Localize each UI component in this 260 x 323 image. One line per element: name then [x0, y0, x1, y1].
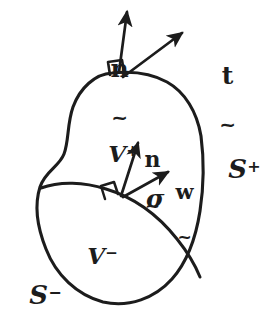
region-minus-superscript: −	[105, 244, 118, 262]
normal-outer-glyph: n	[104, 56, 135, 81]
velocity-inner-glyph: w	[169, 181, 200, 202]
region-plus-superscript: +	[126, 142, 139, 160]
surface-minus-superscript: −	[48, 283, 61, 302]
velocity-inner-tilde: ~	[169, 233, 200, 242]
label-surface-plus: S+	[208, 140, 260, 198]
region-minus-base: V	[87, 242, 105, 269]
figure-canvas: n ~ t ~ n ~ w ~ σ V+ V− S+ S−	[0, 0, 260, 323]
surface-minus-base: S	[29, 280, 48, 310]
label-sigma: σ	[146, 186, 164, 211]
label-region-minus: V−	[67, 228, 118, 283]
label-surface-minus: S−	[9, 266, 62, 323]
label-region-plus: V+	[88, 126, 139, 181]
region-plus-base: V	[108, 140, 126, 167]
surface-plus-superscript: +	[247, 157, 260, 176]
traction-outer-tilde: ~	[212, 119, 243, 130]
surface-plus-base: S	[228, 154, 247, 184]
traction-outer-glyph: t	[212, 63, 243, 88]
